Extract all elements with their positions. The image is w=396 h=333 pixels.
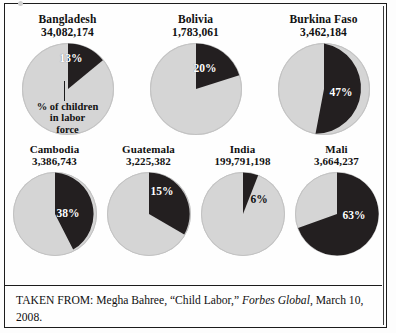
pie-percent-label: 20% [194,63,217,75]
chart-row-top: Bangladesh 34,082,174 13% % of children [4,13,387,135]
pie-wrap: 47% [278,43,370,135]
pie-wrap: 63% [295,172,379,256]
pie-svg [278,43,370,135]
pie-chart-india [201,172,285,256]
pie-percent-label: 15% [151,186,174,198]
pie-cell-bangladesh: Bangladesh 34,082,174 13% % of children [22,13,114,135]
pie-cell-mali: Mali 3,664,237 63% [295,143,379,256]
annotation-line-3: force [56,124,79,135]
pie-cell-guatemala: Guatemala 3,225,382 15% [107,143,191,256]
children-count: 199,791,198 [214,155,270,167]
pie-chart-burkina-faso [278,43,370,135]
pie-percent-label: 47% [330,87,353,99]
country-name: Bangladesh [39,13,97,26]
pie-wrap: 20% [150,43,242,135]
pie-cell-india: India 199,791,198 6% [201,143,285,256]
pie-percent-label: 6% [251,194,268,206]
child-labor-pie-figure: Bangladesh 34,082,174 13% % of children [0,0,396,333]
pie-chart-cambodia [13,172,97,256]
pie-percent-label: 13% [60,53,83,65]
pie-caption: Burkina Faso 3,462,184 [290,13,358,39]
annotation-line-2: in labor [50,112,85,123]
chart-row-bottom: Cambodia 3,386,743 38% Guatemala [4,143,387,256]
pie-caption: Mali 3,664,237 [314,143,359,168]
charts-area: Bangladesh 34,082,174 13% % of children [4,3,387,287]
pie-wrap: 15% [107,172,191,256]
pie-cell-burkina-faso: Burkina Faso 3,462,184 47% [278,13,370,135]
source-citation: TAKEN FROM: Megha Bahree, “Child Labor,”… [16,293,372,327]
pie-svg [150,43,242,135]
country-name: India [214,143,270,155]
source-divider [5,285,382,286]
annotation-leader-line [64,81,65,101]
pie-svg [107,172,191,256]
children-count: 3,386,743 [30,155,80,167]
children-count: 3,225,382 [122,155,175,167]
pie-chart-bolivia [150,43,242,135]
source-publication: Forbes Global [242,294,310,307]
children-count: 1,783,061 [172,26,219,39]
pie-svg [201,172,285,256]
pie-chart-guatemala [107,172,191,256]
pie-wrap: 38% [13,172,97,256]
pie-percent-label: 38% [57,208,80,220]
pie-percent-label: 63% [343,210,366,222]
source-prefix: TAKEN FROM: Megha Bahree, “Child Labor,” [16,294,242,307]
pie-cell-bolivia: Bolivia 1,783,061 20% [150,13,242,135]
country-name: Bolivia [172,13,219,26]
pie-caption: India 199,791,198 [214,143,270,168]
pie-cell-cambodia: Cambodia 3,386,743 38% [13,143,97,256]
pie-caption: Bolivia 1,783,061 [172,13,219,39]
pie-wrap: 13% % of children in labor force [22,43,114,135]
series-annotation: % of children in labor force [16,101,120,136]
pie-caption: Bangladesh 34,082,174 [39,13,97,39]
pie-caption: Cambodia 3,386,743 [30,143,80,168]
country-name: Mali [314,143,359,155]
country-name: Guatemala [122,143,175,155]
pie-wrap: 6% [201,172,285,256]
pie-caption: Guatemala 3,225,382 [122,143,175,168]
children-count: 3,462,184 [290,26,358,39]
country-name: Cambodia [30,143,80,155]
pie-svg [13,172,97,256]
children-count: 34,082,174 [39,26,97,39]
children-count: 3,664,237 [314,155,359,167]
country-name: Burkina Faso [290,13,358,26]
annotation-line-1: % of children [37,101,99,112]
